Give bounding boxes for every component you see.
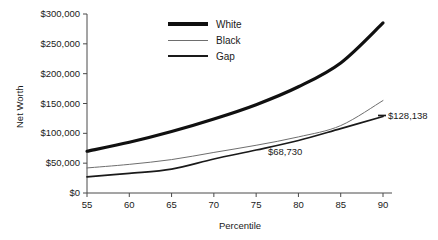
net-worth-chart: $0$50,000$100,000$150,000$200,000$250,00… <box>0 0 438 240</box>
legend-line-black-icon <box>168 34 208 46</box>
y-tick-label: $300,000 <box>40 8 80 19</box>
annotation-label: $128,138 <box>388 110 428 121</box>
y-tick-label: $0 <box>69 187 80 198</box>
y-tick-label: $50,000 <box>46 157 80 168</box>
x-tick-label: 65 <box>152 199 192 210</box>
series-line-gap <box>87 117 383 177</box>
chart-legend: White Black Gap <box>168 16 242 64</box>
annotation-label: $68,730 <box>268 146 302 157</box>
legend-line-white-icon <box>168 18 208 30</box>
y-tick-label: $100,000 <box>40 127 80 138</box>
x-axis-ticks <box>87 193 383 197</box>
x-tick-label: 70 <box>194 199 234 210</box>
x-axis-title: Percentile <box>180 220 300 231</box>
legend-item-black[interactable]: Black <box>168 32 242 48</box>
y-tick-label: $200,000 <box>40 68 80 79</box>
y-tick-label: $250,000 <box>40 38 80 49</box>
x-tick-label: 80 <box>278 199 318 210</box>
y-tick-label: $150,000 <box>40 98 80 109</box>
legend-line-gap-icon <box>168 50 208 62</box>
x-tick-label: 55 <box>67 199 107 210</box>
x-tick-label: 60 <box>109 199 149 210</box>
y-axis-ticks <box>83 14 87 193</box>
legend-label-gap: Gap <box>216 51 235 62</box>
legend-label-white: White <box>216 19 242 30</box>
legend-label-black: Black <box>216 35 240 46</box>
y-axis-title: Net Worth <box>14 85 25 128</box>
legend-item-white[interactable]: White <box>168 16 242 32</box>
legend-item-gap[interactable]: Gap <box>168 48 242 64</box>
x-tick-label: 75 <box>236 199 276 210</box>
x-tick-label: 85 <box>321 199 361 210</box>
x-tick-label: 90 <box>363 199 403 210</box>
